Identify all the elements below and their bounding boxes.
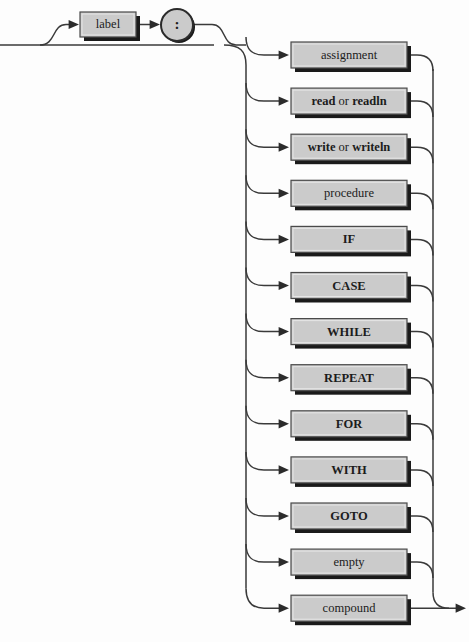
- label-to-colon-arrow: [150, 20, 160, 29]
- label-entry-arrow: [69, 20, 79, 29]
- row-branch-line: [246, 544, 279, 562]
- row-branch-line: [246, 268, 279, 286]
- alternative-label: CASE: [332, 278, 365, 292]
- label-box-text: label: [96, 17, 121, 31]
- row-branch-line: [246, 175, 279, 193]
- row-branch-line: [246, 314, 279, 332]
- railroad-canvas: assignmentread or readlnwrite or writeln…: [0, 0, 469, 642]
- row-branch-line: [246, 406, 279, 424]
- row-branch-arrow: [279, 604, 289, 613]
- row-branch-line: [246, 37, 279, 55]
- alternative-label: IF: [343, 232, 356, 246]
- alternative-label: REPEAT: [324, 371, 374, 385]
- alternative-label: write or writeln: [308, 140, 391, 154]
- row-branch-arrow: [279, 97, 289, 106]
- row-branch-line: [246, 588, 279, 608]
- row-branch-line: [246, 129, 279, 147]
- row-branch-arrow: [279, 558, 289, 567]
- row-branch-arrow: [279, 235, 289, 244]
- label-entry-curve: [40, 25, 70, 46]
- alternative-label: compound: [323, 601, 377, 615]
- row-branch-arrow: [279, 465, 289, 474]
- railroad-diagram: assignmentread or readlnwrite or writeln…: [0, 0, 469, 642]
- alternative-label: procedure: [324, 186, 374, 200]
- alternative-label: WHILE: [327, 324, 371, 338]
- exit-arrow: [456, 604, 466, 613]
- alternative-label: GOTO: [330, 509, 368, 523]
- alternative-label: FOR: [336, 417, 363, 431]
- row-branch-line: [246, 498, 279, 516]
- alternative-label: read or readln: [311, 94, 386, 108]
- row-branch-arrow: [279, 143, 289, 152]
- alternative-label: empty: [333, 555, 365, 569]
- row-branch-arrow: [279, 373, 289, 382]
- row-branch-arrow: [279, 327, 289, 336]
- alternative-label: WITH: [331, 463, 367, 477]
- colon-node-text: :: [175, 16, 180, 32]
- row-branch-arrow: [279, 189, 289, 198]
- row-branch-arrow: [279, 511, 289, 520]
- alternative-label: assignment: [321, 48, 378, 62]
- row-branch-line: [246, 83, 279, 101]
- row-branch-arrow: [279, 50, 289, 59]
- row-branch-arrow: [279, 281, 289, 290]
- right-rail-join-final: [433, 592, 449, 608]
- row-branch-line: [246, 452, 279, 470]
- left-distribution-rail: [224, 45, 246, 588]
- colon-rejoin-curve: [193, 25, 246, 46]
- row-branch-line: [246, 221, 279, 239]
- row-branch-arrow: [279, 419, 289, 428]
- row-branch-line: [246, 360, 279, 378]
